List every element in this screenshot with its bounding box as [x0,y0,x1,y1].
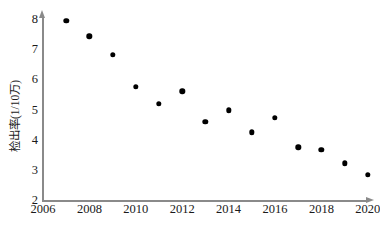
data-point [226,108,231,113]
plot-area [0,0,380,231]
data-point [272,115,277,120]
data-point [295,145,300,150]
data-point [87,33,92,38]
data-point [342,161,347,166]
data-point [156,101,161,106]
data-point [203,119,208,124]
scatter-chart: 检出率(1/10万) 23456782006200820102012201420… [0,0,380,231]
data-point [319,147,324,152]
data-point [110,52,115,57]
data-point [63,18,68,23]
data-point [365,172,370,177]
data-point [249,130,254,135]
data-point [179,89,184,94]
data-point [133,84,138,89]
